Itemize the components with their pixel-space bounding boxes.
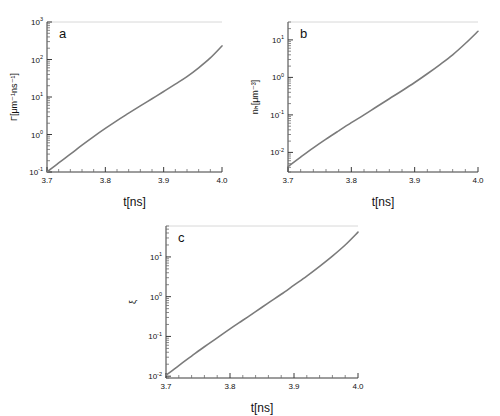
data-curve-b <box>288 31 478 166</box>
y-axis-label: Γ[μm⁻¹ns⁻¹] <box>9 73 19 121</box>
tick-label: 100 <box>31 129 43 140</box>
x-tick-label: 3.8 <box>346 176 358 185</box>
panel-letter-c: c <box>178 230 185 245</box>
x-tick-label: 3.7 <box>41 176 53 185</box>
tick-label: 102 <box>31 54 43 65</box>
panel-c-plot: 3.73.83.94.010-210-1100101t[ns]ξc <box>118 210 383 416</box>
x-axis-label: t[ns] <box>251 401 274 415</box>
panel-a: 3.73.83.94.010-1100101102103t[ns]Γ[μm⁻¹n… <box>0 4 240 210</box>
panel-a-plot: 3.73.83.94.010-1100101102103t[ns]Γ[μm⁻¹n… <box>0 4 240 210</box>
x-tick-label: 3.7 <box>282 176 294 185</box>
panel-c: 3.73.83.94.010-210-1100101t[ns]ξc <box>118 210 383 416</box>
tick-label: 100 <box>272 72 284 83</box>
panel-letter-a: a <box>59 26 67 41</box>
panel-letter-b: b <box>300 26 307 41</box>
x-tick-label: 3.9 <box>158 176 170 185</box>
tick-label: 103 <box>31 16 43 27</box>
tick-label: 101 <box>31 91 43 102</box>
x-axis-label: t[ns] <box>123 195 146 209</box>
y-axis-label: nₕ[μm⁻³] <box>250 80 260 115</box>
panel-b: 3.73.83.94.010-210-1100101t[ns]nₕ[μm⁻³]b <box>240 4 495 210</box>
tick-label: 101 <box>272 34 284 45</box>
tick-label: 10-2 <box>270 147 284 158</box>
data-curve-c <box>166 232 358 375</box>
x-tick-label: 3.8 <box>224 382 236 391</box>
x-tick-label: 4.0 <box>352 382 364 391</box>
x-tick-label: 3.9 <box>288 382 300 391</box>
x-axis-label: t[ns] <box>372 195 395 209</box>
x-tick-label: 4.0 <box>472 176 484 185</box>
data-curve-a <box>47 46 222 172</box>
tick-label: 101 <box>150 251 162 262</box>
tick-label: 10-1 <box>148 331 162 342</box>
x-tick-label: 3.8 <box>100 176 112 185</box>
tick-label: 10-1 <box>270 109 284 120</box>
tick-label: 100 <box>150 291 162 302</box>
tick-label: 10-2 <box>148 371 162 382</box>
x-tick-label: 4.0 <box>216 176 228 185</box>
x-tick-label: 3.9 <box>409 176 421 185</box>
y-axis-label: ξ <box>128 300 138 304</box>
figure-canvas: 3.73.83.94.010-1100101102103t[ns]Γ[μm⁻¹n… <box>0 0 500 416</box>
x-tick-label: 3.7 <box>160 382 172 391</box>
panel-b-plot: 3.73.83.94.010-210-1100101t[ns]nₕ[μm⁻³]b <box>240 4 495 210</box>
